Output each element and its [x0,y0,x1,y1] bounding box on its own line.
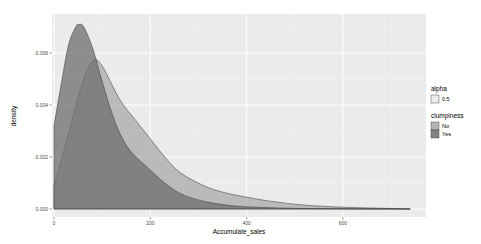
x-tick-label: 600 [339,220,348,226]
legend-label: No [442,123,449,129]
y-tick-label: 0.000 [35,206,48,212]
legend-label: Yes [442,131,451,137]
legend-key-no [431,122,439,130]
y-axis: 0.0000.0020.0040.006 [35,50,52,212]
y-tick-label: 0.004 [35,102,48,108]
legend-label: 0.5 [442,96,450,102]
density-chart: 0.0000.0020.0040.006 0200400600 Accumula… [0,0,481,244]
y-axis-title: density [10,105,18,126]
x-tick-label: 400 [242,220,251,226]
x-tick-label: 0 [53,220,56,226]
y-tick-label: 0.006 [35,50,48,56]
x-tick-label: 200 [146,220,155,226]
x-axis-title: Accumulate_sales [213,228,266,236]
y-tick-label: 0.002 [35,154,48,160]
legend-title: clumpiness [431,112,464,120]
legend-key-0.5 [431,95,439,103]
x-axis: 0200400600 [53,217,348,226]
legend: alpha0.5clumpinessNoYes [431,85,464,138]
legend-title: alpha [431,85,447,93]
legend-key-yes [431,130,439,138]
